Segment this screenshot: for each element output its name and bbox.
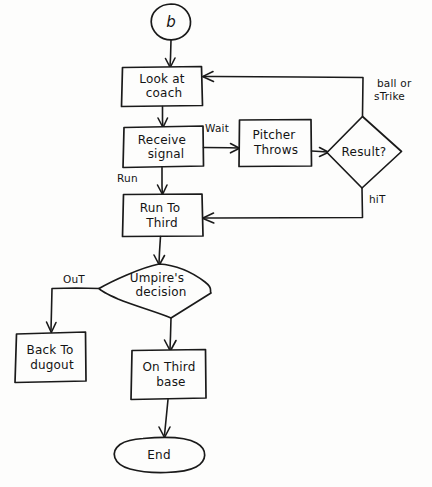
- edge-result-to-run-to-third: hiT: [203, 188, 386, 223]
- umpires-decision-line2: decision: [135, 285, 186, 299]
- node-receive-signal: Receive signal: [123, 126, 204, 168]
- edge-label-ball-or-strike-line2: sTrike: [374, 90, 405, 102]
- look-at-coach-line2: coach: [146, 86, 183, 100]
- run-to-third-line2: Third: [145, 216, 178, 230]
- end-label: End: [147, 448, 170, 462]
- back-to-dugout-line2: dugout: [30, 358, 74, 372]
- pitcher-throws-line2: Throws: [253, 143, 298, 157]
- umpires-decision-line1: Umpire's: [130, 271, 185, 285]
- node-run-to-third: Run To Third: [123, 194, 204, 237]
- edge-receive-signal-to-run-to-third: Run: [117, 168, 167, 195]
- node-umpires-decision: Umpire's decision: [99, 264, 211, 318]
- edge-label-wait: Wait: [205, 122, 229, 134]
- receive-signal-line1: Receive: [138, 133, 186, 147]
- edge-umpires-decision-to-on-third-base: [165, 318, 177, 351]
- start-label: b: [166, 13, 176, 31]
- node-start-connector: b: [151, 4, 190, 40]
- run-to-third-line1: Run To: [140, 201, 181, 215]
- on-third-base-line1: On Third: [142, 360, 195, 374]
- edge-pitcher-throws-to-result: [312, 148, 329, 157]
- look-at-coach-line1: Look at: [139, 72, 184, 86]
- edge-umpires-decision-to-back-to-dugout: OuT: [47, 273, 100, 333]
- node-end: End: [114, 437, 204, 472]
- edge-result-to-look-at-coach: ball or sTrike: [203, 72, 412, 117]
- edge-run-to-third-to-umpires-decision: [154, 237, 165, 266]
- back-to-dugout-line1: Back To: [27, 343, 74, 357]
- node-back-to-dugout: Back To dugout: [15, 332, 86, 383]
- result-label: Result?: [342, 145, 387, 159]
- edge-label-out: OuT: [63, 273, 85, 285]
- edge-label-hit: hiT: [369, 193, 386, 205]
- flowchart-svg: b Look at coach Receive signal Wai: [0, 0, 432, 487]
- edge-on-third-base-to-end: [159, 400, 170, 438]
- node-pitcher-throws: Pitcher Throws: [239, 120, 312, 167]
- edge-start-to-look-at-coach: [166, 40, 176, 68]
- edge-label-ball-or-strike-line1: ball or: [377, 77, 412, 89]
- edge-label-run: Run: [117, 172, 138, 184]
- node-look-at-coach: Look at coach: [122, 67, 203, 107]
- node-on-third-base: On Third base: [131, 350, 206, 400]
- node-result-decision: Result?: [327, 117, 402, 189]
- edge-look-at-coach-to-receive-signal: [158, 107, 168, 128]
- flowchart-canvas: b Look at coach Receive signal Wai: [0, 0, 432, 487]
- pitcher-throws-line1: Pitcher: [253, 128, 296, 142]
- receive-signal-line2: signal: [148, 147, 185, 161]
- edge-receive-signal-to-pitcher-throws: Wait: [204, 122, 240, 153]
- on-third-base-line2: base: [156, 375, 185, 389]
